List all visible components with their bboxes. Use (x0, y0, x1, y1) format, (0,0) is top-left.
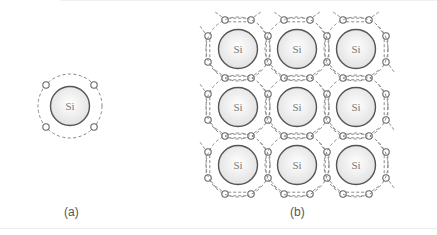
bond-stub (378, 142, 383, 149)
bond-stub (260, 142, 265, 149)
bond-stub (389, 123, 394, 130)
atom-label: Si (351, 101, 360, 113)
electron (91, 124, 97, 130)
bond-stub (211, 123, 216, 130)
electron (91, 82, 97, 88)
electron (248, 133, 254, 139)
bond-stub (211, 181, 216, 188)
atom-label: Si (233, 43, 242, 55)
panel-a-single-atom: Si (38, 74, 102, 138)
bond-stub (215, 12, 222, 17)
atom-label: Si (292, 101, 301, 113)
electron (340, 75, 346, 81)
electron (222, 133, 228, 139)
electron (281, 75, 287, 81)
atom-label: Si (65, 100, 74, 112)
atom-label: Si (233, 101, 242, 113)
atom-label: Si (292, 159, 301, 171)
panel-b-lattice: SiSiSiSiSiSiSiSiSi (200, 12, 394, 197)
bond-stub (200, 26, 205, 33)
atom-label: Si (351, 43, 360, 55)
electron (366, 75, 372, 81)
bond-stub (378, 26, 383, 33)
bond-stub (319, 84, 324, 91)
electron (248, 191, 254, 197)
atom-label: Si (292, 43, 301, 55)
electron (366, 17, 372, 23)
bond-stub (211, 65, 216, 72)
electron (222, 191, 228, 197)
bond-stub (378, 84, 383, 91)
electron (222, 75, 228, 81)
bond-stub (200, 142, 205, 149)
caption-a: (a) (64, 205, 79, 219)
electron (281, 17, 287, 23)
electron (340, 133, 346, 139)
electron (281, 133, 287, 139)
electron (307, 191, 313, 197)
atom-label: Si (233, 159, 242, 171)
electron (366, 191, 372, 197)
electron (222, 17, 228, 23)
bond-stub (372, 12, 379, 17)
electron (340, 191, 346, 197)
bond-stub (254, 12, 261, 17)
bond-stub (260, 26, 265, 33)
electron (366, 133, 372, 139)
electron (248, 17, 254, 23)
bond-stub (313, 12, 320, 17)
caption-b: (b) (290, 205, 305, 219)
electron (43, 124, 49, 130)
bond-stub (319, 142, 324, 149)
bond-stub (319, 26, 324, 33)
bond-stub (389, 181, 394, 188)
atom-label: Si (351, 159, 360, 171)
electron (307, 75, 313, 81)
electron (248, 75, 254, 81)
bond-stub (260, 84, 265, 91)
bond-stub (389, 65, 394, 72)
electron (43, 82, 49, 88)
bond-stub (333, 12, 340, 17)
electron (281, 191, 287, 197)
silicon-diagram: Si SiSiSiSiSiSiSiSiSi (0, 0, 437, 235)
electron (307, 17, 313, 23)
electron (307, 133, 313, 139)
bond-stub (200, 84, 205, 91)
electron (340, 17, 346, 23)
bond-stub (274, 12, 281, 17)
